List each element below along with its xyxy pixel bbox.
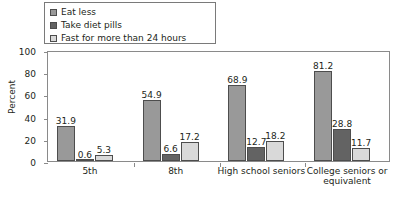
bar-label-2-0: 68.9 (223, 76, 251, 85)
bar-0-2 (95, 155, 113, 161)
y-tick-label-60: 60 (10, 92, 36, 101)
bar-2-1 (247, 147, 265, 161)
bar-label-0-2: 5.3 (90, 146, 118, 155)
bar-label-3-2: 11.7 (347, 139, 375, 148)
legend-item-fast-24-hours: Fast for more than 24 hours (50, 32, 215, 44)
bar-chart: Eat less Take diet pills Fast for more t… (0, 0, 399, 200)
bar-label-2-2: 18.2 (261, 132, 289, 141)
legend-swatch-take-diet-pills (50, 22, 57, 29)
y-tick-80 (44, 74, 48, 75)
bar-label-1-0: 54.9 (138, 91, 166, 100)
bar-2-0 (228, 85, 246, 161)
bar-3-0 (314, 71, 332, 161)
legend-label-eat-less: Eat less (61, 7, 96, 17)
plot-area: 02040608010031.90.65.354.96.617.268.912.… (47, 51, 390, 162)
category-label-3: College seniors or equivalent (292, 166, 399, 186)
category-label-3-line1: College seniors or (292, 166, 399, 176)
bar-1-2 (181, 142, 199, 161)
bar-label-0-0: 31.9 (52, 117, 80, 126)
chart-legend: Eat less Take diet pills Fast for more t… (44, 2, 216, 44)
y-tick-label-20: 20 (10, 137, 36, 146)
y-tick-40 (44, 119, 48, 120)
y-tick-label-100: 100 (10, 48, 36, 57)
legend-item-take-diet-pills: Take diet pills (50, 19, 215, 31)
y-tick-60 (44, 96, 48, 97)
y-tick-100 (44, 52, 48, 53)
bar-label-3-1: 28.8 (328, 120, 356, 129)
bar-label-1-2: 17.2 (176, 133, 204, 142)
y-tick-label-40: 40 (10, 115, 36, 124)
legend-swatch-fast-24-hours (50, 35, 57, 42)
bar-3-2 (352, 148, 370, 161)
bar-1-1 (162, 154, 180, 161)
category-label-3-line2: equivalent (292, 176, 399, 186)
y-tick-0 (44, 163, 48, 164)
legend-swatch-eat-less (50, 9, 57, 16)
legend-label-fast-24-hours: Fast for more than 24 hours (61, 33, 186, 43)
bar-label-3-0: 81.2 (309, 62, 337, 71)
y-tick-label-0: 0 (10, 159, 36, 168)
legend-item-eat-less: Eat less (50, 6, 215, 18)
y-tick-label-80: 80 (10, 70, 36, 79)
bar-2-2 (266, 141, 284, 161)
legend-label-take-diet-pills: Take diet pills (61, 20, 122, 30)
y-tick-20 (44, 141, 48, 142)
